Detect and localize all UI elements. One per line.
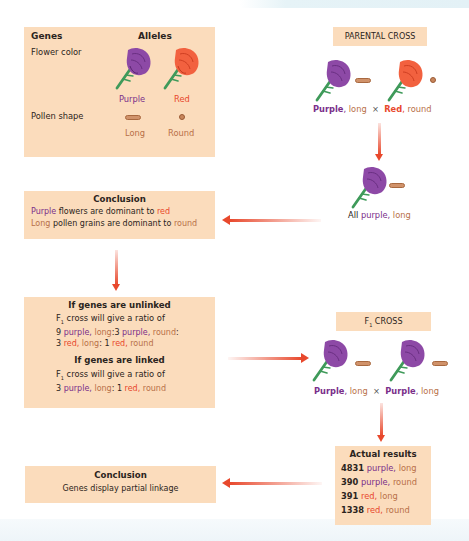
conclusion-line-1: Purple flowers are dominant to red [31, 206, 170, 217]
parental-cross-label-box: PARENTAL CROSS [333, 27, 427, 46]
conclusion-text: Genes display partial linkage [25, 483, 216, 494]
genes-header: Genes [31, 31, 62, 42]
long-allele-label: Long [125, 128, 145, 139]
actual-results-title: Actual results [335, 449, 431, 460]
result-row: 391 red, long [341, 491, 398, 502]
conclusion-box-dominance: Conclusion Purple flowers are dominant t… [24, 191, 215, 239]
long-pollen-icon [355, 78, 371, 83]
arrow-icon [228, 357, 302, 360]
actual-results-box: Actual results 4831 purple, long 390 pur… [335, 446, 431, 525]
parental-cross-title: PARENTAL CROSS [333, 31, 427, 42]
arrow-icon [229, 219, 321, 222]
arrow-icon [380, 403, 383, 436]
red-flower-icon [386, 58, 426, 102]
f1-cross-caption: Purple, long × Purple, long [314, 386, 439, 397]
cross-symbol: × [373, 386, 380, 396]
purple-flower-icon [114, 46, 154, 90]
long-pollen-icon [125, 115, 141, 120]
alleles-box: Genes Alleles Flower color Purple Red Po… [24, 27, 215, 157]
long-pollen-icon [355, 361, 371, 366]
purple-allele-label: Purple [119, 94, 145, 105]
alleles-header: Alleles [138, 31, 172, 42]
round-pollen-icon [179, 114, 185, 120]
unlinked-ratio-line-1: 9 purple, long:3 purple, round: [56, 327, 179, 338]
top-decorative-band [240, 0, 469, 8]
unlinked-ratio-line-2: 3 red, long: 1 red, round [56, 338, 153, 349]
predictions-box: If genes are unlinked F1 cross will give… [24, 297, 215, 408]
conclusion-line-2: Long pollen grains are dominant to round [31, 218, 197, 229]
round-allele-label: Round [168, 128, 194, 139]
result-row: 390 purple, round [341, 477, 417, 488]
red-allele-label: Red [174, 94, 190, 105]
conclusion-title: Conclusion [25, 470, 216, 481]
purple-flower-icon [388, 338, 428, 382]
linked-text: F1 cross will give a ratio of [56, 369, 165, 384]
flower-color-label: Flower color [31, 47, 82, 58]
red-flower-icon [162, 46, 202, 90]
f1-cross-label-box: F1 CROSS [336, 312, 431, 331]
unlinked-text: F1 cross will give a ratio of [56, 313, 165, 328]
conclusion-box-linkage: Conclusion Genes display partial linkage [25, 466, 216, 503]
f1-cross-title: F1 CROSS [336, 316, 431, 331]
result-row: 4831 purple, long [341, 463, 417, 474]
long-pollen-icon [389, 183, 405, 188]
unlinked-title: If genes are unlinked [24, 300, 215, 311]
conclusion-title: Conclusion [24, 194, 215, 205]
result-row: 1338 red, round [341, 505, 410, 516]
long-pollen-icon [432, 361, 448, 366]
arrow-icon [115, 250, 118, 285]
arrow-icon [378, 123, 381, 155]
linked-title: If genes are linked [24, 355, 215, 366]
parental-cross-caption: Purple, long × Red, round [313, 104, 432, 115]
arrow-icon [229, 482, 322, 485]
f1-offspring-caption: All purple, long [348, 210, 411, 221]
purple-flower-icon [350, 165, 390, 209]
round-pollen-icon [430, 77, 436, 83]
purple-flower-icon [311, 338, 351, 382]
purple-flower-icon [314, 58, 354, 102]
linked-ratio: 3 purple, long: 1 red, round [56, 383, 166, 394]
cross-symbol: × [372, 104, 379, 114]
pollen-shape-label: Pollen shape [31, 111, 83, 122]
